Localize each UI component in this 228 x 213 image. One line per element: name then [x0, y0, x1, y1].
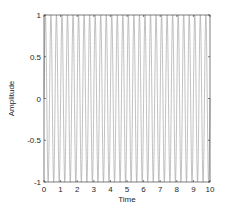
chart: 012345678910 -1-0.500.51 Time Amplitude — [0, 0, 228, 213]
x-tick-label: 1 — [58, 185, 63, 194]
y-tick-label: -0.5 — [27, 136, 41, 145]
y-tick-label: -1 — [34, 178, 42, 187]
x-tick-label: 4 — [108, 185, 113, 194]
x-axis-label: Time — [118, 195, 136, 204]
x-tick-label: 8 — [175, 185, 180, 194]
x-axis: 012345678910 — [42, 15, 215, 194]
y-axis-label: Amplitude — [7, 80, 16, 116]
y-tick-label: 0.5 — [30, 53, 42, 62]
x-tick-label: 9 — [191, 185, 196, 194]
x-tick-label: 6 — [141, 185, 146, 194]
x-tick-label: 10 — [206, 185, 215, 194]
x-tick-label: 0 — [42, 185, 47, 194]
y-tick-label: 1 — [37, 11, 42, 20]
x-tick-label: 2 — [75, 185, 80, 194]
x-tick-label: 3 — [92, 185, 97, 194]
signal-line — [44, 15, 210, 182]
y-tick-label: 0 — [37, 95, 42, 104]
x-tick-label: 7 — [158, 185, 163, 194]
x-tick-label: 5 — [125, 185, 130, 194]
signal-path — [44, 15, 210, 182]
